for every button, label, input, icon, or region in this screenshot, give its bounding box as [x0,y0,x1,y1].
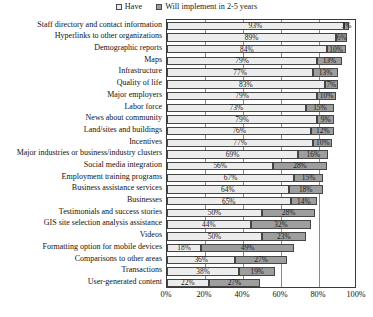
bar-value-will-implement: 28% [293,162,307,169]
bar-value-will-implement: 49% [241,244,255,251]
bar-segment-have: 83% [167,80,325,88]
bar-row: 89%6% [167,33,355,41]
bar-row: 50%28% [167,209,355,217]
category-label: Formatting option for mobile devices [42,243,162,251]
category-label: Infrastructure [118,67,162,75]
bar-value-will-implement: 15% [313,104,327,111]
x-tick-label: 40% [234,290,249,299]
bar-value-have: 79% [235,92,249,99]
bar-value-will-implement: 28% [282,209,296,216]
bar-segment-will-implement: 32% [251,220,312,228]
bar-value-will-implement: 18% [299,186,313,193]
bar-row: 50%23% [167,232,355,240]
bar-row: 36%27% [167,256,355,264]
category-label: Transactions [121,266,162,274]
bar-segment-will-implement: 13% [317,57,342,65]
bar-value-have: 36% [194,256,208,263]
bar-row: 79%10% [167,92,355,100]
bar-segment-will-implement: 14% [291,197,318,205]
bar-value-have: 79% [235,116,249,123]
bar-segment-will-implement: 28% [262,209,315,217]
category-label: User-generated content [88,278,162,286]
category-label: Major employers [107,91,162,99]
category-label: Demographic reports [94,44,162,52]
bar-segment-will-implement: 18% [289,185,323,193]
category-label: Testimonials and success stories [59,208,162,216]
bar-segment-have: 38% [167,267,239,275]
category-label: Major industries or business/industry cl… [17,149,162,157]
bar-value-have: 89% [245,34,259,41]
bar-value-have: 83% [239,81,253,88]
category-label: Comparisons to other areas [75,255,162,263]
x-tick-label: 80% [310,290,325,299]
bar-segment-will-implement: 27% [209,279,260,287]
bar-value-have: 44% [202,221,216,228]
bar-segment-have: 79% [167,115,317,123]
bar-row: 73%15% [167,104,355,112]
bar-value-have: 64% [221,186,235,193]
bar-segment-have: 67% [167,174,294,182]
bar-value-will-implement: 6% [337,34,347,41]
bar-segment-will-implement: 27% [235,256,286,264]
bar-value-have: 69% [226,151,240,158]
bar-row: 83%7% [167,80,355,88]
bar-segment-will-implement: 3% [344,22,350,30]
bar-segment-have: 22% [167,279,209,287]
bar-value-will-implement: 10% [320,92,334,99]
legend-entry-have: Have [116,2,142,11]
bar-value-will-implement: 27% [228,279,242,286]
bar-segment-have: 50% [167,232,262,240]
bar-row: 79%9% [167,115,355,123]
bar-segment-will-implement: 9% [317,115,334,123]
bar-value-have: 73% [230,104,244,111]
bar-value-have: 79% [235,57,249,64]
legend-swatch-have-icon [116,4,122,10]
category-label: Quality of life [117,79,162,87]
category-label: Business assistance services [72,184,162,192]
bar-value-have: 84% [240,46,254,53]
category-label: Labor force [124,103,162,111]
bar-row: 22%27% [167,279,355,287]
bar-row: 93%3% [167,22,355,30]
bar-value-will-implement: 9% [321,116,331,123]
bar-segment-will-implement: 10% [327,45,346,53]
bar-row: 56%28% [167,162,355,170]
bar-value-will-implement: 16% [307,151,321,158]
bar-row: 69%16% [167,150,355,158]
bar-row: 67%15% [167,174,355,182]
bar-value-have: 77% [233,139,247,146]
bar-row: 77%13% [167,68,355,76]
x-tick-label: 60% [272,290,287,299]
bar-segment-have: 36% [167,256,235,264]
bar-value-have: 50% [208,233,222,240]
bar-value-have: 38% [196,268,210,275]
bar-segment-have: 50% [167,209,262,217]
category-axis-labels: Staff directory and contact informationH… [0,19,164,288]
category-label: Videos [140,231,162,239]
bar-row: 76%12% [167,127,355,135]
bar-value-have: 67% [224,174,238,181]
bar-value-have: 56% [213,162,227,169]
bar-row: 38%19% [167,267,355,275]
bar-value-will-implement: 19% [250,268,264,275]
bar-row: 44%32% [167,220,355,228]
bar-segment-have: 64% [167,185,289,193]
bar-segment-will-implement: 19% [239,267,275,275]
category-label: Incentives [129,138,162,146]
legend-entry-will-implement: Will implement in 2-5 years [156,2,257,11]
bar-value-will-implement: 3% [342,22,352,29]
category-label: Employment training programs [62,173,162,181]
bar-segment-will-implement: 13% [313,68,338,76]
bar-segment-have: 93% [167,22,344,30]
bar-value-will-implement: 23% [277,233,291,240]
bar-row: 84%10% [167,45,355,53]
bar-value-have: 76% [232,127,246,134]
bar-row: 77%10% [167,139,355,147]
category-label: Land/sites and buildings [84,126,162,134]
category-label: GIS site selection analysis assistance [44,219,162,227]
legend-label-have: Have [125,2,142,11]
legend-swatch-will-implement-icon [156,4,162,10]
bar-value-have: 50% [208,209,222,216]
category-label: Social media integration [84,161,162,169]
bar-segment-will-implement: 10% [313,139,332,147]
